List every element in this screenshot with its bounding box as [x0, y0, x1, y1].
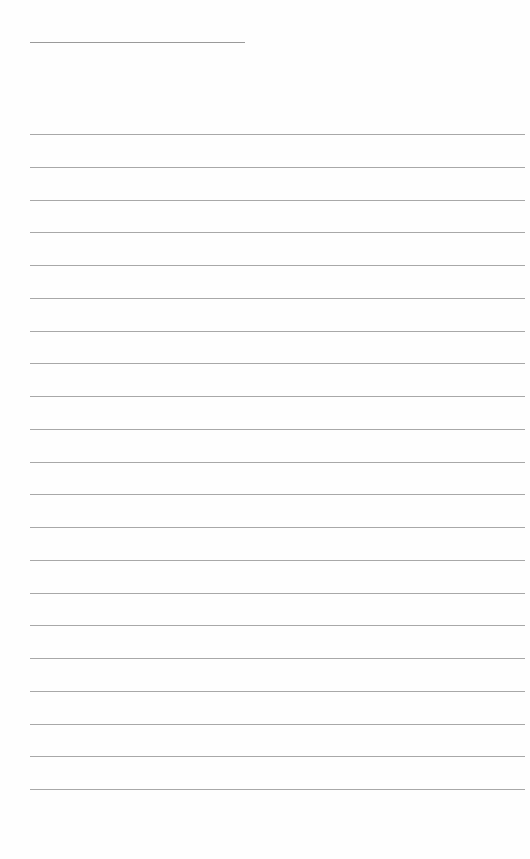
ruled-line	[30, 756, 525, 757]
ruled-line	[30, 789, 525, 790]
ruled-line	[30, 462, 525, 463]
ruled-line	[30, 724, 525, 725]
ruled-line	[30, 593, 525, 594]
ruled-line	[30, 527, 525, 528]
ruled-line	[30, 298, 525, 299]
ruled-line	[30, 232, 525, 233]
ruled-line	[30, 658, 525, 659]
ruled-line	[30, 167, 525, 168]
ruled-line	[30, 691, 525, 692]
ruled-line	[30, 200, 525, 201]
ruled-line	[30, 396, 525, 397]
ruled-line	[30, 363, 525, 364]
ruled-line	[30, 134, 525, 135]
ruled-line	[30, 560, 525, 561]
ruled-line	[30, 625, 525, 626]
ruled-line	[30, 331, 525, 332]
ruled-line	[30, 265, 525, 266]
ruled-line	[30, 494, 525, 495]
ruled-line	[30, 429, 525, 430]
header-name-line	[30, 42, 245, 43]
